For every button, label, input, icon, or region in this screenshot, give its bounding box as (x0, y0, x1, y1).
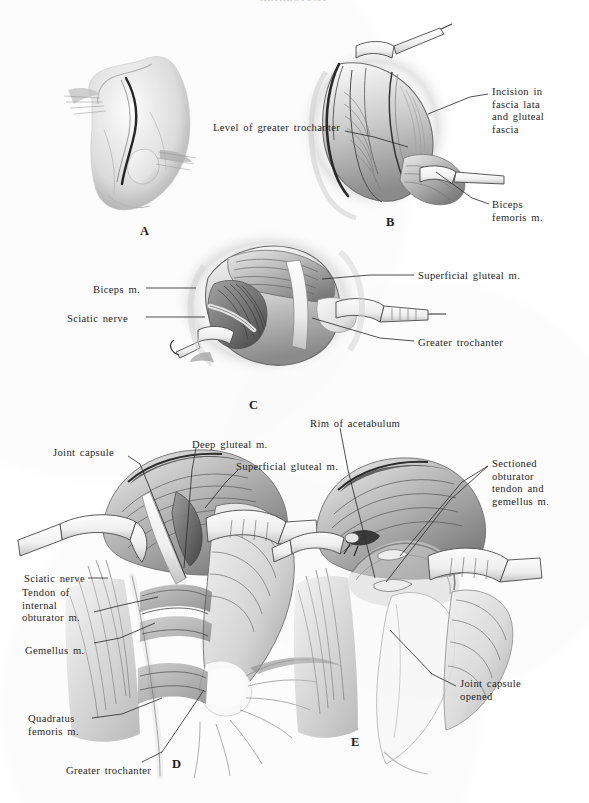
label-sciatic-nerve-d: Sciatic nerve (24, 573, 85, 586)
figure-page: ARTHROTOMY (0, 0, 589, 803)
label-incision-in-fascia-lata-and-gluteal-fascia: Incision in fascia lata and gluteal fasc… (492, 86, 544, 136)
label-gemellus-m: Gemellus m. (25, 645, 85, 658)
label-superficial-gluteal-m-d: Superficial gluteal m. (236, 461, 338, 474)
label-level-of-greater-trochanter: Level of greater trochanter (213, 122, 340, 135)
label-biceps-femoris-m: Biceps femoris m. (492, 199, 543, 224)
label-tendon-of-internal-obturator-m: Tendon of internal obturator m. (22, 587, 80, 625)
label-deep-gluteal-m: Deep gluteal m. (192, 439, 268, 452)
panel-letter-e: E (351, 735, 360, 750)
label-superficial-gluteal-m: Superficial gluteal m. (418, 270, 520, 283)
label-greater-trochanter: Greater trochanter (418, 337, 503, 350)
label-sectioned-obturator-tendon-and-gemellus-m: Sectioned obturator tendon and gemellus … (492, 458, 549, 508)
panel-letter-a: A (140, 224, 149, 239)
panel-letter-c: C (249, 398, 258, 413)
panel-letter-b: B (386, 215, 395, 230)
label-greater-trochanter-d: Greater trochanter (66, 765, 151, 778)
label-biceps-m: Biceps m. (93, 284, 140, 297)
label-quadratus-femoris-m: Quadratus femoris m. (28, 713, 79, 738)
label-sciatic-nerve: Sciatic nerve (67, 313, 128, 326)
panel-letter-d: D (172, 757, 181, 772)
label-rim-of-acetabulum: Rim of acetabulum (310, 418, 400, 431)
label-joint-capsule: Joint capsule (53, 447, 114, 460)
label-joint-capsule-opened: Joint capsule opened (460, 678, 521, 703)
